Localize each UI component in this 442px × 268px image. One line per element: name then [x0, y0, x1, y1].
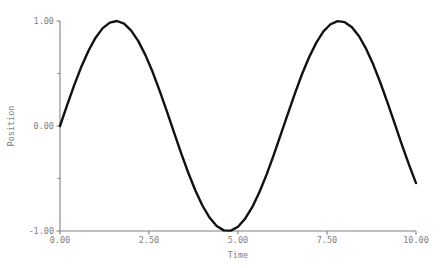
- x-axis-title: Time: [228, 250, 248, 260]
- y-tick-label: -1.00: [28, 226, 54, 236]
- x-tick-label: 0.00: [50, 235, 70, 245]
- x-tick-label: 10.00: [403, 235, 429, 245]
- x-tick-label: 7.50: [317, 235, 337, 245]
- x-axis-ticks: 0.002.505.007.5010.00: [50, 231, 429, 245]
- y-axis-title: Position: [6, 106, 16, 147]
- x-tick-label: 5.00: [228, 235, 248, 245]
- y-axis-ticks: -1.000.001.00: [28, 16, 60, 236]
- series-line-position: [60, 21, 416, 231]
- y-tick-label: 0.00: [34, 121, 54, 131]
- sine-wave-plot: 0.002.505.007.5010.00 -1.000.001.00 Time…: [0, 0, 442, 268]
- y-tick-label: 1.00: [34, 16, 54, 26]
- x-tick-label: 2.50: [139, 235, 159, 245]
- chart-figure: 0.002.505.007.5010.00 -1.000.001.00 Time…: [0, 0, 442, 268]
